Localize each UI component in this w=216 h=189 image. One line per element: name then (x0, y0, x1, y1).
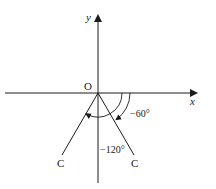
angle-label-minus-60: −60° (130, 108, 150, 119)
x-axis-label: x (189, 95, 195, 107)
ray-minus-120 (62, 93, 98, 155)
y-axis-label: y (85, 11, 91, 23)
ray-end-label-right: C (131, 157, 138, 169)
origin-label: O (84, 80, 92, 92)
angle-label-minus-120: −120° (100, 144, 125, 155)
ray-end-label-left: C (57, 157, 64, 169)
angle-diagram: y x O −60° −120° C C (0, 0, 216, 189)
